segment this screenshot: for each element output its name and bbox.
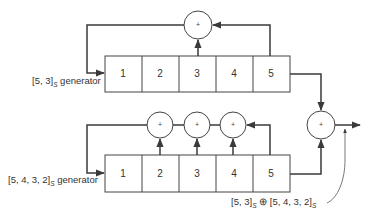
top-cell-1: 1 [120, 68, 126, 79]
bottom-cell-4: 4 [231, 168, 237, 179]
top-cell-5: 5 [268, 68, 274, 79]
plus-icon: + [196, 21, 200, 28]
plus-icon: + [231, 121, 235, 128]
bottom-cell-5: 5 [268, 168, 274, 179]
plus-icon: + [319, 121, 323, 128]
plus-icon: + [195, 121, 199, 128]
top-cell-4: 4 [231, 68, 237, 79]
output-leader-line [327, 129, 345, 203]
bottom-shift-register: 1 2 3 4 5 [105, 155, 290, 192]
top-cell-2: 2 [157, 68, 163, 79]
bottom-xor-adders: + + + [147, 112, 246, 138]
plus-icon: + [158, 121, 162, 128]
output-xor-adder: + [307, 111, 360, 139]
top-cell-3: 3 [194, 68, 200, 79]
output-sequence-label: [5, 3]S ⊕ [5, 4, 3, 2]S [231, 196, 316, 209]
bottom-cell-3: 3 [194, 168, 200, 179]
bottom-generator-label: [5, 4, 3, 2]S generator [8, 174, 98, 187]
top-generator-label: [5, 3]S generator [32, 75, 101, 88]
top-shift-register: 1 2 3 4 5 [105, 56, 290, 92]
bottom-cell-2: 2 [157, 168, 163, 179]
top-xor-adder: + [184, 11, 212, 39]
bottom-cell-1: 1 [120, 168, 126, 179]
